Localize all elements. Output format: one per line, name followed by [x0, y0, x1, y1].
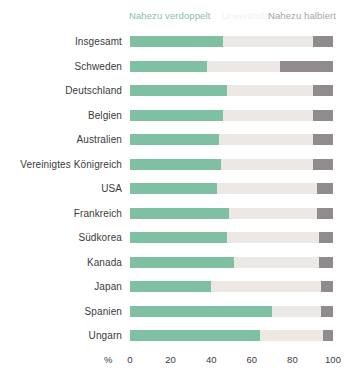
- bar-segment-0: [130, 85, 227, 96]
- x-tick-0: 0: [127, 352, 132, 368]
- row-label-ungarn: Ungarn: [0, 324, 122, 349]
- chart-row: Frankreich: [0, 202, 355, 227]
- bar-track: [130, 330, 333, 341]
- chart-row: Insgesamt: [0, 30, 355, 55]
- row-label-insgesamt: Insgesamt: [0, 30, 122, 55]
- bar-segment-2: [321, 281, 333, 292]
- bar-segment-1: [227, 232, 318, 243]
- bar-segment-0: [130, 306, 272, 317]
- chart-row: Schweden: [0, 55, 355, 80]
- chart-rows: InsgesamtSchwedenDeutschlandBelgienAustr…: [0, 30, 355, 349]
- bar-segment-2: [317, 208, 333, 219]
- row-label-vereinigtes-k-nigreich: Vereinigtes Königreich: [0, 153, 122, 178]
- bar-segment-2: [313, 134, 333, 145]
- chart-row: Deutschland: [0, 79, 355, 104]
- row-label-frankreich: Frankreich: [0, 202, 122, 227]
- bar-segment-1: [217, 183, 316, 194]
- chart-row: USA: [0, 177, 355, 202]
- bar-segment-1: [227, 85, 312, 96]
- bar-segment-0: [130, 61, 207, 72]
- bar-segment-2: [313, 159, 333, 170]
- bar-segment-1: [223, 110, 312, 121]
- chart-row: Vereinigtes Königreich: [0, 153, 355, 178]
- chart-legend: Nahezu verdoppelt Unverändert Nahezu hal…: [0, 8, 355, 24]
- bar-segment-0: [130, 281, 211, 292]
- chart-row: Südkorea: [0, 226, 355, 251]
- bar-track: [130, 110, 333, 121]
- x-axis-unit-label: %: [104, 352, 112, 368]
- bar-segment-2: [317, 183, 333, 194]
- bar-track: [130, 281, 333, 292]
- bar-track: [130, 306, 333, 317]
- chart-row: Australien: [0, 128, 355, 153]
- bar-track: [130, 183, 333, 194]
- bar-segment-2: [321, 306, 333, 317]
- x-tick-40: 40: [206, 352, 217, 368]
- bar-segment-2: [319, 232, 333, 243]
- bar-track: [130, 159, 333, 170]
- x-tick-100: 100: [325, 352, 341, 368]
- row-label-s-dkorea: Südkorea: [0, 226, 122, 251]
- x-tick-80: 80: [287, 352, 298, 368]
- bar-segment-2: [313, 36, 333, 47]
- row-label-kanada: Kanada: [0, 251, 122, 276]
- bar-segment-2: [313, 110, 333, 121]
- bar-segment-2: [319, 257, 333, 268]
- legend-item-nahezu-halbiert: Nahezu halbiert: [268, 8, 336, 24]
- row-label-usa: USA: [0, 177, 122, 202]
- bar-segment-1: [219, 134, 312, 145]
- bar-segment-0: [130, 183, 217, 194]
- row-label-japan: Japan: [0, 275, 122, 300]
- x-tick-20: 20: [165, 352, 176, 368]
- chart-row: Japan: [0, 275, 355, 300]
- bar-segment-1: [272, 306, 321, 317]
- bar-track: [130, 85, 333, 96]
- x-tick-60: 60: [247, 352, 258, 368]
- bar-segment-0: [130, 232, 227, 243]
- bar-segment-1: [229, 208, 316, 219]
- bar-track: [130, 61, 333, 72]
- bar-segment-1: [234, 257, 319, 268]
- bar-segment-0: [130, 134, 219, 145]
- bar-segment-1: [211, 281, 321, 292]
- bar-track: [130, 257, 333, 268]
- bar-segment-2: [280, 61, 333, 72]
- legend-item-nahezu-verdoppelt: Nahezu verdoppelt: [129, 8, 210, 24]
- row-label-australien: Australien: [0, 128, 122, 153]
- row-label-belgien: Belgien: [0, 104, 122, 129]
- bar-segment-2: [323, 330, 333, 341]
- bar-segment-1: [207, 61, 280, 72]
- bar-segment-2: [313, 85, 333, 96]
- stacked-bar-chart: Nahezu verdoppelt Unverändert Nahezu hal…: [0, 0, 355, 382]
- bar-track: [130, 208, 333, 219]
- chart-row: Spanien: [0, 300, 355, 325]
- x-axis: % 020406080100: [0, 352, 355, 368]
- bar-segment-0: [130, 110, 223, 121]
- bar-segment-0: [130, 208, 229, 219]
- bar-segment-0: [130, 257, 234, 268]
- bar-segment-1: [223, 36, 312, 47]
- row-label-deutschland: Deutschland: [0, 79, 122, 104]
- bar-segment-1: [260, 330, 323, 341]
- bar-track: [130, 134, 333, 145]
- chart-row: Kanada: [0, 251, 355, 276]
- bar-segment-0: [130, 36, 223, 47]
- row-label-spanien: Spanien: [0, 300, 122, 325]
- bar-segment-1: [221, 159, 312, 170]
- bar-segment-0: [130, 159, 221, 170]
- chart-row: Ungarn: [0, 324, 355, 349]
- bar-segment-0: [130, 330, 260, 341]
- bar-track: [130, 36, 333, 47]
- chart-row: Belgien: [0, 104, 355, 129]
- bar-track: [130, 232, 333, 243]
- row-label-schweden: Schweden: [0, 55, 122, 80]
